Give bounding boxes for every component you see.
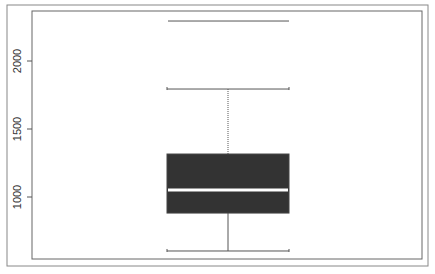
box-group <box>167 21 289 252</box>
boxplot-chart: 100015002000 <box>0 0 435 274</box>
y-tick-label: 2000 <box>11 49 23 73</box>
plot-area-frame <box>32 11 422 259</box>
y-tick-label: 1000 <box>11 185 23 209</box>
iqr-box <box>167 154 289 213</box>
y-axis: 100015002000 <box>11 49 32 209</box>
y-tick-label: 1500 <box>11 117 23 141</box>
outer-frame <box>7 5 428 266</box>
